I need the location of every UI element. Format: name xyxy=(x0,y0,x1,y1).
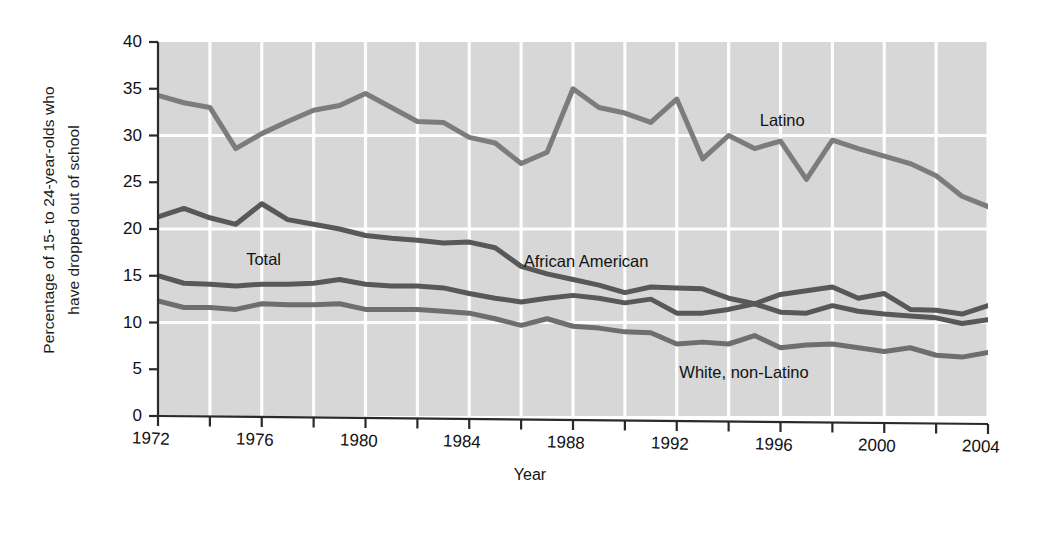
y-tick-label-25: 25 xyxy=(108,173,142,190)
x-tick-label-1996: 1996 xyxy=(754,435,793,454)
x-tick-label-1980: 1980 xyxy=(339,431,378,450)
plot-area xyxy=(158,42,988,416)
y-tick-label-15: 15 xyxy=(108,267,142,284)
y-tick-label-35: 35 xyxy=(108,80,142,97)
y-axis-title-line1: Percentage of 15- to 24-year-olds who xyxy=(36,86,61,353)
y-tick-label-0: 0 xyxy=(108,407,142,424)
chart-figure: Percentage of 15- to 24-year-olds who ha… xyxy=(0,0,1060,534)
y-axis-tick-labels: 0510152025303540 xyxy=(108,0,142,534)
x-axis-spine xyxy=(158,416,988,424)
x-tick-label-2000: 2000 xyxy=(858,436,897,455)
y-tick-label-10: 10 xyxy=(108,314,142,331)
y-tick-label-5: 5 xyxy=(108,360,142,377)
x-tick-label-1976: 1976 xyxy=(235,430,274,449)
series-label-total: Total xyxy=(246,251,281,268)
x-tick-label-1992: 1992 xyxy=(650,434,689,453)
y-tick-label-30: 30 xyxy=(108,127,142,144)
y-axis-title-line2: have dropped out of school xyxy=(61,86,86,353)
y-axis-title: Percentage of 15- to 24-year-olds who ha… xyxy=(18,20,104,420)
plot-svg xyxy=(158,42,988,416)
y-tick-label-40: 40 xyxy=(108,33,142,50)
x-tick-label-2004: 2004 xyxy=(962,437,1001,456)
y-tick-label-20: 20 xyxy=(108,220,142,237)
series-label-latino: Latino xyxy=(760,112,805,129)
x-tick-label-1988: 1988 xyxy=(547,433,586,452)
x-tick-label-1984: 1984 xyxy=(443,432,482,451)
series-label-african-american: African American xyxy=(524,253,649,270)
x-axis-title: Year xyxy=(0,466,1060,484)
x-tick-label-1972: 1972 xyxy=(132,429,171,448)
series-label-white-non-latino: White, non-Latino xyxy=(679,364,808,381)
